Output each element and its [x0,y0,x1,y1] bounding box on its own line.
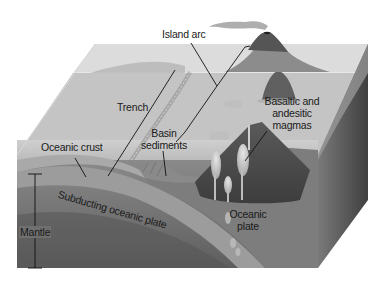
island-volcano [248,32,288,52]
smoke-plume [207,21,268,30]
magma-droplet [236,248,241,256]
magma-plume-1 [211,151,221,179]
label-oceanic-plate-line1: Oceanic [226,208,270,220]
label-trench: Trench [117,101,148,113]
magma-droplet [230,238,236,248]
label-basin-line2: sediments [136,139,192,151]
label-island-arc: Island arc [162,28,206,40]
label-oceanic-crust: Oceanic crust [41,141,103,153]
label-basaltic-line2: andesitic [264,107,320,119]
label-mantle: Mantle [19,226,51,238]
label-basin-line1: Basin [146,127,182,139]
vent-smoke [224,100,242,108]
label-oceanic-plate-line2: plate [226,220,270,232]
label-basaltic-line3: magmas [264,119,320,131]
label-basaltic-line1: Basaltic and [258,95,326,107]
